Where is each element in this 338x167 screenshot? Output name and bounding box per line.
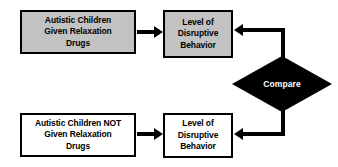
arrowhead-left-icon xyxy=(234,24,243,36)
node-treatment-group-line-2: Given Relaxation xyxy=(44,26,111,38)
node-control-outcome-line-1: Level of xyxy=(182,118,213,130)
arrowhead-right-icon xyxy=(154,26,163,38)
flowchart-canvas: Autistic Children Given Relaxation Drugs… xyxy=(0,0,338,167)
node-control-group-line-3: Drugs xyxy=(66,141,90,153)
node-control-group[interactable]: Autistic Children NOT Given Relaxation D… xyxy=(20,113,136,157)
node-treatment-outcome-line-2: Disruptive xyxy=(178,28,219,40)
node-control-group-line-2: Given Relaxation xyxy=(44,129,111,141)
node-control-group-line-1: Autistic Children NOT xyxy=(35,118,121,130)
connector-segment-horizontal xyxy=(243,132,285,136)
node-treatment-outcome[interactable]: Level of Disruptive Behavior xyxy=(163,10,233,58)
node-control-outcome-line-2: Disruptive xyxy=(178,130,219,142)
node-treatment-outcome-line-1: Level of xyxy=(182,17,213,29)
arrowhead-left-icon xyxy=(234,128,243,140)
connector-segment-horizontal xyxy=(243,28,285,32)
node-treatment-group-line-3: Drugs xyxy=(66,38,90,50)
node-treatment-group-line-1: Autistic Children xyxy=(45,15,111,27)
node-control-outcome-line-3: Behavior xyxy=(180,141,216,153)
arrowhead-right-icon xyxy=(154,128,163,140)
node-control-outcome[interactable]: Level of Disruptive Behavior xyxy=(163,113,233,158)
connector-segment-horizontal xyxy=(137,30,155,34)
connector-segment-horizontal xyxy=(137,132,155,136)
node-compare-label: Compare xyxy=(232,56,332,112)
node-treatment-outcome-line-3: Behavior xyxy=(180,40,216,52)
node-compare-diamond[interactable]: Compare xyxy=(232,56,332,112)
node-treatment-group[interactable]: Autistic Children Given Relaxation Drugs xyxy=(20,10,136,54)
